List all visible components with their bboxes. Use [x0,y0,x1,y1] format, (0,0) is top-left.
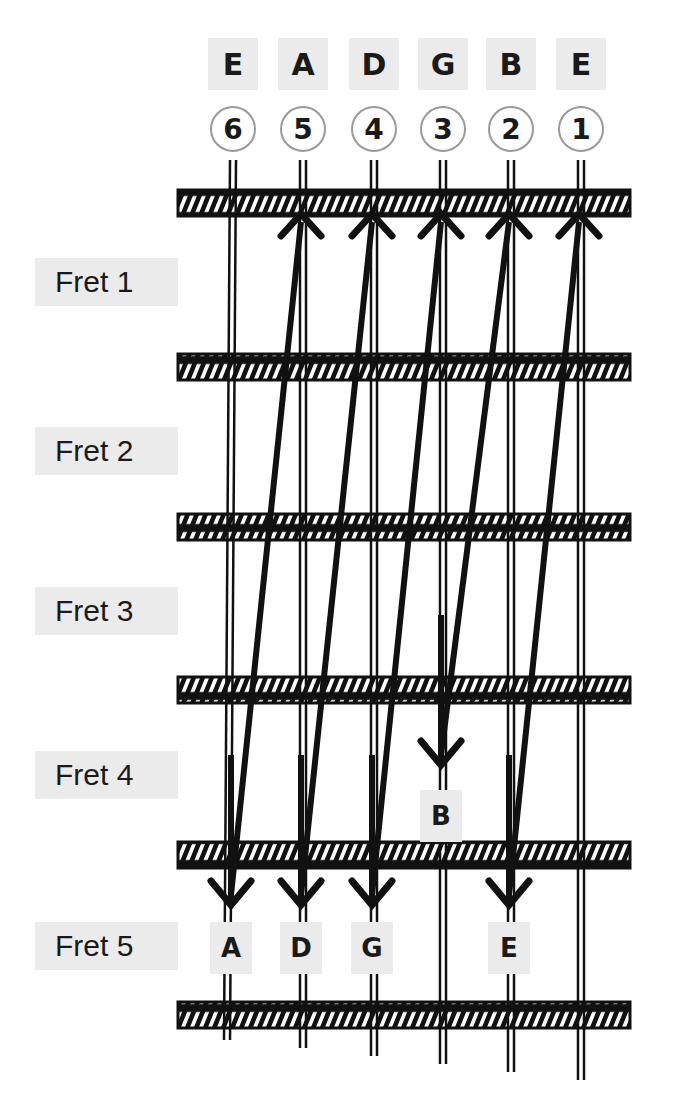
tuning-note-label: G [351,922,393,974]
fret-wire [178,677,630,703]
string-name-label: B [486,38,536,90]
arrow-shaft [441,222,509,755]
string-name-label: E [208,38,258,90]
string-name-label: G [418,38,468,90]
fret-label: Fret 4 [35,751,178,799]
fret-label: Fret 5 [35,922,178,970]
string-name-label: A [278,38,328,90]
fret-wire [178,190,630,216]
tuning-note-label: E [488,922,530,974]
string-number-badge: 5 [280,106,326,152]
string-number-badge: 3 [420,106,466,152]
string-name-label: D [349,38,399,90]
guitar-strings [224,160,584,1080]
fret-label: Fret 2 [35,427,178,475]
tuning-note-label: B [420,790,462,842]
fret-wire [178,1002,630,1028]
string-name-label: E [556,38,606,90]
fret-label: Fret 3 [35,587,178,635]
arrow-shaft [231,222,301,895]
arrow-shaft [509,222,579,895]
string-number-badge: 6 [210,106,256,152]
string-number-badge: 4 [351,106,397,152]
tuning-arrows [211,214,599,905]
tuning-note-label: A [210,922,252,974]
arrow-shaft [301,222,372,895]
tuning-note-label: D [280,922,322,974]
fret-wire [178,842,630,868]
string-number-badge: 1 [558,106,604,152]
fret-wire [178,514,630,540]
tuning-diagram: E6A5D4G3B2E1Fret 1Fret 2Fret 3Fret 4Fret… [0,0,678,1111]
string-number-badge: 2 [488,106,534,152]
fret-label: Fret 1 [35,258,178,306]
